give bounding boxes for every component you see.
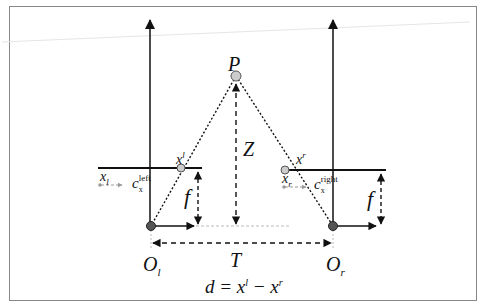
label-left-image-point: xl — [176, 151, 185, 167]
right-center-icon — [329, 222, 338, 231]
scan-artifact — [2, 22, 470, 42]
left-ray — [151, 76, 236, 226]
label-left-image-coord: xl — [100, 170, 109, 187]
label-baseline-t: T — [230, 250, 241, 270]
label-right-image-coord: xr — [282, 172, 292, 189]
left-center-icon — [147, 222, 156, 231]
label-left-center: Ol — [143, 254, 161, 278]
label-focal-right: f — [367, 188, 373, 210]
stereo-diagram: P Z xl xr xl xr cxleft cxright f f Ol T … — [0, 0, 485, 305]
label-focal-left: f — [184, 186, 190, 208]
label-depth-z: Z — [243, 139, 254, 159]
disparity-equation: d = xl − xr — [205, 277, 283, 296]
label-left-principal: cxleft — [132, 176, 155, 191]
label-right-principal: cxright — [314, 177, 342, 192]
label-right-image-point: xr — [296, 151, 306, 167]
label-right-center: Or — [326, 254, 345, 278]
label-point-p: P — [228, 54, 240, 74]
